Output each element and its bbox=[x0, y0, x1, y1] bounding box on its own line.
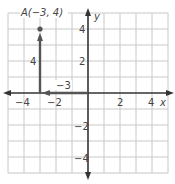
point-a-label: A(−3, 4) bbox=[20, 7, 63, 18]
x-tick-neg2: −2 bbox=[47, 97, 62, 108]
x-tick-4: 4 bbox=[148, 97, 154, 108]
y-axis-label: y bbox=[93, 11, 101, 22]
vertical-segment-label: 4 bbox=[30, 56, 36, 67]
vertical-segment bbox=[37, 33, 43, 93]
horizontal-segment-label: −3 bbox=[56, 80, 71, 91]
y-tick-neg2: −2 bbox=[74, 121, 89, 132]
y-tick-neg4: −4 bbox=[74, 153, 89, 164]
y-tick-4: 4 bbox=[79, 24, 85, 35]
point-a-marker bbox=[37, 26, 42, 31]
coordinate-plane: A(−3, 4) 4 −3 y x −4 −2 2 4 4 2 −2 −4 bbox=[0, 0, 175, 184]
x-axis-label: x bbox=[159, 97, 166, 108]
x-tick-2: 2 bbox=[117, 97, 123, 108]
x-tick-neg4: −4 bbox=[15, 97, 30, 108]
y-tick-2: 2 bbox=[79, 56, 85, 67]
